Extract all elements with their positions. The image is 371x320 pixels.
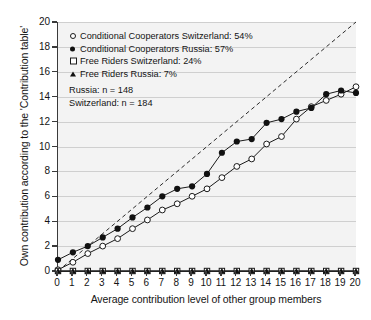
series-line: [58, 87, 356, 270]
marker-filled-circle: [353, 90, 359, 96]
x-axis-tick: [161, 271, 162, 276]
marker-filled-circle: [249, 136, 255, 142]
x-axis-tick: [265, 271, 266, 276]
legend: Conditional Cooperators Switzerland: 54%…: [69, 30, 253, 80]
y-axis-tick-label: 18: [26, 41, 50, 52]
x-axis-tick: [205, 271, 206, 276]
x-axis-tick: [235, 271, 236, 276]
y-axis-tick-label: 4: [26, 215, 50, 226]
legend-item-cc-russia: Conditional Cooperators Russia: 57%: [69, 43, 253, 56]
x-axis-tick: [101, 271, 102, 276]
x-axis-tick: [56, 271, 57, 276]
y-axis-tick-label: 0: [26, 265, 50, 276]
marker-filled-circle: [70, 249, 76, 255]
marker-open-circle: [204, 186, 210, 192]
chart-figure: Own contribution according to the 'Contr…: [0, 0, 371, 320]
marker-open-circle: [264, 141, 270, 147]
marker-open-circle: [130, 226, 136, 232]
marker-open-circle: [174, 201, 180, 207]
y-axis-tick-label: 2: [26, 240, 50, 251]
marker-open-circle: [100, 243, 106, 249]
x-axis-tick: [176, 271, 177, 276]
y-axis-tick-label: 12: [26, 116, 50, 127]
marker-open-circle: [279, 134, 285, 140]
y-axis-tick-label: 14: [26, 91, 50, 102]
plot-area: Conditional Cooperators Switzerland: 54%…: [57, 22, 356, 272]
marker-open-circle: [219, 175, 225, 181]
marker-open-circle: [85, 251, 91, 257]
y-axis-tick-label: 8: [26, 165, 50, 176]
x-axis-tick: [310, 271, 311, 276]
y-axis-tick-label: 10: [26, 141, 50, 152]
x-axis-tick: [146, 271, 147, 276]
x-axis-tick-label: 20: [345, 277, 365, 288]
series-0: [55, 84, 359, 273]
legend-label: Conditional Cooperators Russia: 57%: [80, 43, 233, 56]
marker-open-circle: [353, 84, 359, 90]
filled-circle-icon: [69, 43, 80, 56]
open-circle-icon: [69, 30, 80, 43]
marker-filled-circle: [234, 138, 240, 144]
marker-open-circle: [145, 217, 151, 223]
sample-size-notes: Russia: n = 148 Switzerland: n = 184: [69, 84, 153, 110]
marker-filled-circle: [338, 87, 344, 93]
x-axis-tick: [116, 271, 117, 276]
x-axis-tick: [295, 271, 296, 276]
note-russia-n: Russia: n = 148: [69, 84, 153, 97]
x-axis-tick: [131, 271, 132, 276]
marker-filled-circle: [293, 109, 299, 115]
x-axis-tick: [190, 271, 191, 276]
y-axis-tick-label: 6: [26, 190, 50, 201]
y-axis-tick-label: 20: [26, 16, 50, 27]
legend-label: Conditional Cooperators Switzerland: 54%: [80, 30, 253, 43]
marker-open-circle: [234, 164, 240, 170]
legend-label: Free Riders Russia: 7%: [80, 68, 177, 81]
x-axis-title: Average contribution level of other grou…: [57, 293, 355, 305]
x-axis-tick: [325, 271, 326, 276]
x-axis-tick: [339, 271, 340, 276]
series-1: [55, 87, 359, 263]
x-axis-tick: [86, 271, 87, 276]
marker-filled-circle: [85, 243, 91, 249]
marker-filled-circle: [129, 214, 135, 220]
marker-filled-circle: [323, 91, 329, 97]
marker-filled-circle: [55, 257, 61, 263]
marker-open-circle: [249, 156, 255, 162]
marker-open-circle: [294, 116, 300, 122]
legend-item-fr-russia: Free Riders Russia: 7%: [69, 68, 253, 81]
x-axis-tick: [220, 271, 221, 276]
marker-filled-circle: [174, 186, 180, 192]
x-axis-tick: [250, 271, 251, 276]
marker-open-circle: [115, 236, 121, 242]
note-switzerland-n: Switzerland: n = 184: [69, 97, 153, 110]
marker-filled-circle: [144, 204, 150, 210]
marker-filled-circle: [189, 183, 195, 189]
marker-filled-circle: [264, 120, 270, 126]
marker-filled-circle: [204, 171, 210, 177]
filled-triangle-icon: [69, 68, 80, 81]
y-axis-tick-label: 16: [26, 66, 50, 77]
x-axis-tick: [71, 271, 72, 276]
open-square-icon: [69, 55, 80, 68]
marker-filled-circle: [278, 116, 284, 122]
marker-open-circle: [189, 193, 195, 199]
x-axis-tick: [280, 271, 281, 276]
marker-filled-circle: [308, 105, 314, 111]
marker-open-circle: [323, 98, 329, 104]
marker-open-circle: [70, 259, 76, 265]
marker-filled-circle: [219, 150, 225, 156]
marker-open-circle: [159, 207, 165, 213]
marker-filled-circle: [115, 226, 121, 232]
legend-item-cc-switzerland: Conditional Cooperators Switzerland: 54%: [69, 30, 253, 43]
marker-filled-circle: [159, 193, 165, 199]
legend-item-fr-switzerland: Free Riders Switzerland: 24%: [69, 55, 253, 68]
x-axis-tick: [354, 271, 355, 276]
legend-label: Free Riders Switzerland: 24%: [80, 55, 202, 68]
marker-filled-circle: [100, 234, 106, 240]
